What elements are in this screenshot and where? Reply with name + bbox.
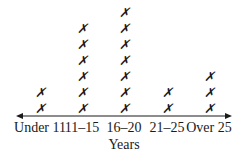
category-label: 16–20 xyxy=(107,120,142,136)
x-mark: ✗ xyxy=(35,85,47,100)
x-axis-title: Years xyxy=(108,137,139,153)
x-mark: ✗ xyxy=(77,101,89,116)
category-label: 21–25 xyxy=(150,120,185,136)
x-mark: ✗ xyxy=(119,85,131,100)
x-mark: ✗ xyxy=(119,21,131,36)
x-mark: ✗ xyxy=(162,85,174,100)
x-mark: ✗ xyxy=(119,69,131,84)
x-mark: ✗ xyxy=(204,69,216,84)
x-mark: ✗ xyxy=(77,85,89,100)
x-mark: ✗ xyxy=(119,5,131,20)
x-mark: ✗ xyxy=(77,21,89,36)
x-mark: ✗ xyxy=(119,101,131,116)
x-mark: ✗ xyxy=(119,53,131,68)
right-arrow-icon xyxy=(225,113,232,119)
x-mark: ✗ xyxy=(77,69,89,84)
x-mark: ✗ xyxy=(162,101,174,116)
category-label: Under 11 xyxy=(14,120,66,136)
x-mark: ✗ xyxy=(35,101,47,116)
category-label: Over 25 xyxy=(186,120,232,136)
x-marks: ✗✗✗✗✗✗✗✗✗✗✗✗✗✗✗✗✗✗✗✗ xyxy=(35,5,216,116)
x-mark: ✗ xyxy=(77,37,89,52)
category-label: 11–15 xyxy=(65,120,99,136)
x-mark: ✗ xyxy=(204,85,216,100)
left-arrow-icon xyxy=(16,113,23,119)
x-mark: ✗ xyxy=(204,101,216,116)
x-mark: ✗ xyxy=(77,53,89,68)
x-mark: ✗ xyxy=(119,37,131,52)
